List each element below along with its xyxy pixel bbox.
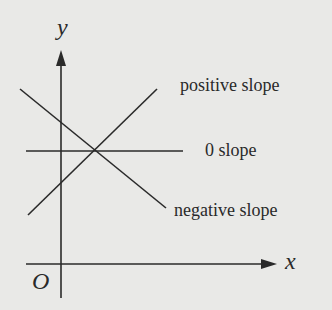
slope-diagram: y x O positive slope 0 slope negative sl… — [0, 0, 332, 310]
y-axis-arrow-icon — [56, 50, 66, 66]
positive-slope-label: positive slope — [180, 75, 280, 96]
x-axis-arrow-icon — [261, 259, 277, 269]
diagram-graphics — [0, 0, 332, 310]
negative-slope-label: negative slope — [174, 200, 277, 221]
negative-slope-line — [20, 89, 166, 208]
positive-slope-line — [28, 89, 157, 215]
x-axis-label: x — [285, 248, 296, 275]
y-axis-label: y — [57, 14, 68, 41]
origin-label: O — [32, 268, 49, 295]
zero-slope-label: 0 slope — [205, 140, 257, 161]
